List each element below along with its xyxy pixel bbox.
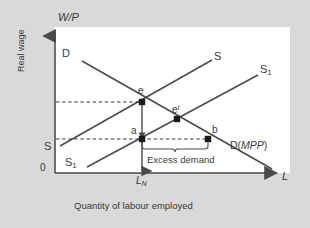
origin-label: 0: [40, 163, 46, 173]
supply-shifted-label-top: S1: [260, 64, 272, 77]
demand-curve-label-left: D: [62, 48, 70, 59]
point-label-e-prime-superscript: I: [178, 103, 180, 112]
x-axis-caption: Quantity of labour employed: [74, 201, 193, 211]
diagram-vector-layer: [0, 0, 310, 228]
marker-point-e-prime: [174, 116, 180, 122]
marker-point-b: [205, 136, 211, 142]
x-axis-title: L: [282, 171, 288, 182]
supply-shifted-label-left: S1: [65, 157, 77, 170]
economics-diagram-figure: W/P Real wage 0 L LN Quantity of labour …: [0, 0, 310, 228]
point-label-e-prime: eI: [172, 104, 180, 115]
point-label-a: a: [131, 126, 137, 136]
point-label-e: e: [138, 86, 144, 96]
marker-point-e: [139, 99, 145, 105]
marker-point-a: [139, 136, 145, 142]
excess-demand-brace-path: [142, 143, 208, 153]
demand-label-mpp: MPP: [241, 139, 264, 151]
supply-curve-label-left: S: [44, 141, 51, 152]
y-axis-label: Real wage: [16, 29, 26, 72]
supply-shifted-label-top-subscript: 1: [267, 68, 271, 77]
demand-curve-label-right: D(MPP): [230, 140, 267, 151]
y-axis-title: W/P: [58, 12, 79, 23]
point-label-b: b: [212, 125, 218, 135]
x-tick-label-ln: LN: [136, 176, 147, 187]
demand-label-close: ): [264, 139, 268, 151]
demand-label-open: D(: [230, 139, 241, 151]
x-tick-label-ln-subscript: N: [142, 179, 147, 188]
excess-demand-label: Excess demand: [147, 155, 215, 165]
supply-shifted-label-left-subscript: 1: [72, 161, 76, 170]
supply-curve-label-top: S: [214, 51, 221, 62]
